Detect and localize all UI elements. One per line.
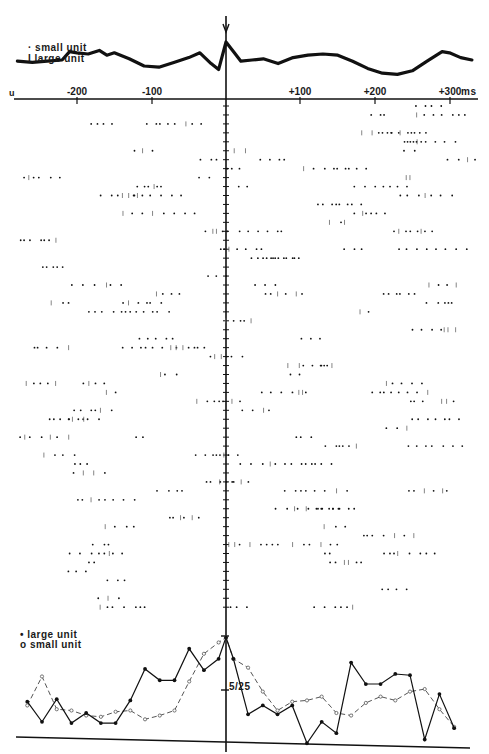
small-unit-spike [52, 266, 54, 268]
small-unit-spike [405, 230, 407, 232]
small-unit-spike [417, 418, 419, 420]
small-unit-spike [108, 544, 110, 546]
small-unit-spike [277, 544, 279, 546]
small-unit-spike [75, 571, 77, 573]
small-unit-spike [100, 195, 102, 197]
small-unit-spike [430, 195, 432, 197]
small-unit-spike [46, 266, 48, 268]
small-unit-spike [103, 123, 105, 125]
small-unit-spike [241, 409, 243, 411]
small-unit-spike [38, 177, 40, 179]
small-unit-spike [62, 454, 64, 456]
small-unit-spike [179, 293, 181, 295]
small-unit-spike [111, 195, 113, 197]
small-unit-spike [233, 320, 235, 322]
small-unit-spike [152, 150, 154, 152]
small-unit-spike [212, 454, 214, 456]
small-unit-spike [464, 114, 466, 116]
small-unit-spike [48, 239, 50, 241]
small-unit-spike [215, 454, 217, 456]
small-unit-spike [461, 445, 463, 447]
small-unit-spike [213, 400, 215, 402]
large-unit-point [246, 712, 250, 716]
small-unit-spike [56, 436, 58, 438]
small-unit-spike [433, 114, 435, 116]
small-unit-spike [329, 562, 331, 564]
small-unit-point [291, 700, 294, 703]
small-unit-spike [104, 472, 106, 474]
large-unit-point [187, 647, 191, 651]
small-unit-spike [239, 400, 241, 402]
small-unit-spike [346, 490, 348, 492]
small-unit-spike [210, 356, 212, 358]
small-unit-spike [239, 168, 241, 170]
small-unit-spike [34, 347, 36, 349]
small-unit-spike [223, 248, 225, 250]
small-unit-spike [162, 293, 164, 295]
small-unit-spike [68, 302, 70, 304]
small-unit-spike [335, 204, 337, 206]
small-unit-spike [260, 544, 262, 546]
large-unit-point [40, 720, 44, 724]
small-unit-spike [252, 409, 254, 411]
small-unit-spike [29, 436, 31, 438]
small-unit-point [246, 666, 249, 669]
small-unit-spike [149, 195, 151, 197]
small-unit-spike [419, 132, 421, 134]
small-unit-spike [425, 105, 427, 107]
large-unit-point [452, 726, 456, 730]
small-unit-spike [382, 132, 384, 134]
small-unit-spike [200, 123, 202, 125]
small-unit-spike [416, 248, 418, 250]
large-unit-point [276, 712, 280, 716]
small-unit-spike [265, 293, 267, 295]
small-unit-spike [343, 248, 345, 250]
small-unit-spike [335, 562, 337, 564]
small-unit-spike [425, 445, 427, 447]
small-unit-spike [143, 311, 145, 313]
small-unit-point [26, 704, 29, 707]
large-unit-point [99, 721, 103, 725]
large-unit-point [143, 667, 147, 671]
small-unit-spike [236, 606, 238, 608]
small-unit-spike [135, 311, 137, 313]
small-unit-spike [256, 248, 258, 250]
small-unit-spike [94, 284, 96, 286]
small-unit-point [364, 701, 367, 704]
small-unit-spike [220, 248, 222, 250]
small-unit-spike [274, 257, 276, 259]
small-unit-spike [59, 418, 61, 420]
small-unit-spike [86, 463, 88, 465]
small-unit-spike [418, 195, 420, 197]
large-unit-point [25, 700, 29, 704]
small-unit-spike [176, 490, 178, 492]
small-unit-spike [270, 293, 272, 295]
small-unit-spike [107, 606, 109, 608]
small-unit-spike [19, 436, 21, 438]
small-unit-spike [131, 347, 133, 349]
x-tick-label: +300 [439, 86, 462, 97]
small-unit-spike [39, 383, 41, 385]
small-unit-spike [329, 553, 331, 555]
small-unit-spike [298, 257, 300, 259]
small-unit-spike [444, 141, 446, 143]
small-unit-spike [384, 213, 386, 215]
small-unit-spike [231, 168, 233, 170]
small-unit-spike [435, 248, 437, 250]
large-unit-point [55, 697, 59, 701]
small-unit-spike [458, 418, 460, 420]
small-unit-spike [322, 204, 324, 206]
small-unit-spike [98, 553, 100, 555]
small-unit-spike [106, 579, 108, 581]
small-unit-spike [79, 463, 81, 465]
small-unit-spike [147, 338, 149, 340]
small-unit-spike [236, 248, 238, 250]
small-unit-spike [257, 230, 259, 232]
small-unit-spike [268, 409, 270, 411]
small-unit-spike [69, 553, 71, 555]
small-unit-spike [410, 400, 412, 402]
small-unit-spike [47, 383, 49, 385]
small-unit-spike [53, 418, 55, 420]
small-unit-spike [95, 383, 97, 385]
small-unit-spike [134, 499, 136, 501]
